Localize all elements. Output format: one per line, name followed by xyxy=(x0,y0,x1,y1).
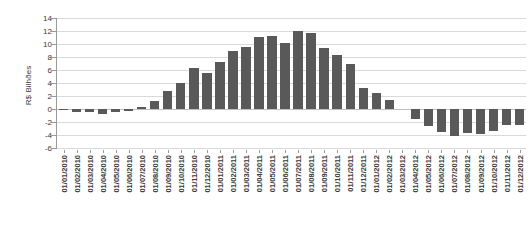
bar[interactable] xyxy=(124,109,133,111)
y-tick-mark xyxy=(51,83,56,84)
x-tick-label: 01/03/2012 xyxy=(398,155,407,193)
x-tick-label: 01/09/2010 xyxy=(163,155,172,193)
bar[interactable] xyxy=(85,109,94,112)
bar[interactable] xyxy=(385,100,394,109)
bar-slot xyxy=(70,18,83,148)
bar-slot xyxy=(435,18,448,148)
y-tick-mark xyxy=(51,31,56,32)
x-tick-mark xyxy=(481,150,482,153)
x-tick-mark xyxy=(337,150,338,153)
bar[interactable] xyxy=(346,64,355,109)
x-label-slot: 01/08/2011 xyxy=(305,150,318,232)
bar-slot xyxy=(422,18,435,148)
bar[interactable] xyxy=(515,109,524,125)
x-label-slot: 01/05/2011 xyxy=(266,150,279,232)
bar[interactable] xyxy=(254,37,263,109)
x-label-slot: 01/12/2012 xyxy=(513,150,526,232)
plot-area xyxy=(57,18,526,148)
bar[interactable] xyxy=(502,109,511,125)
bar[interactable] xyxy=(241,47,250,109)
x-tick-mark xyxy=(64,150,65,153)
x-tick-mark xyxy=(507,150,508,153)
bar-slot xyxy=(213,18,226,148)
x-label-slot: 01/10/2012 xyxy=(487,150,500,232)
bar[interactable] xyxy=(489,109,498,131)
x-tick-mark xyxy=(363,150,364,153)
x-label-slot: 01/11/2012 xyxy=(500,150,513,232)
bar-slot xyxy=(500,18,513,148)
x-label-slot: 01/07/2010 xyxy=(135,150,148,232)
bar-slot xyxy=(187,18,200,148)
x-tick-label: 01/01/2010 xyxy=(59,155,68,193)
x-label-slot: 01/08/2012 xyxy=(461,150,474,232)
x-tick-mark xyxy=(246,150,247,153)
x-tick-mark xyxy=(376,150,377,153)
x-tick-mark xyxy=(467,150,468,153)
bar[interactable] xyxy=(111,109,120,112)
bar[interactable] xyxy=(293,31,302,109)
bar-slot xyxy=(370,18,383,148)
bar[interactable] xyxy=(137,107,146,109)
x-tick-label: 01/06/2012 xyxy=(437,155,446,193)
bar[interactable] xyxy=(215,62,224,109)
x-tick-mark xyxy=(494,150,495,153)
bar[interactable] xyxy=(72,109,81,112)
bar-slot xyxy=(266,18,279,148)
bar[interactable] xyxy=(424,109,433,126)
x-tick-mark xyxy=(520,150,521,153)
bar-slot xyxy=(148,18,161,148)
bar[interactable] xyxy=(163,91,172,109)
bar[interactable] xyxy=(59,109,68,110)
y-tick-mark xyxy=(51,57,56,58)
bar[interactable] xyxy=(463,109,472,133)
bar-slot xyxy=(409,18,422,148)
x-tick-mark xyxy=(298,150,299,153)
bar-slot xyxy=(396,18,409,148)
bar-slot xyxy=(174,18,187,148)
bar-slot xyxy=(344,18,357,148)
x-tick-mark xyxy=(155,150,156,153)
x-tick-label: 01/10/2011 xyxy=(333,155,342,192)
x-tick-label: 01/09/2011 xyxy=(320,155,329,192)
x-tick-mark xyxy=(389,150,390,153)
bar-slot xyxy=(331,18,344,148)
bar[interactable] xyxy=(437,109,446,132)
bar[interactable] xyxy=(202,73,211,109)
bar-slot xyxy=(109,18,122,148)
bar[interactable] xyxy=(267,36,276,109)
x-label-slot: 01/04/2011 xyxy=(252,150,265,232)
bar[interactable] xyxy=(280,43,289,109)
bar[interactable] xyxy=(176,83,185,109)
x-label-slot: 01/10/2010 xyxy=(174,150,187,232)
x-tick-label: 01/03/2010 xyxy=(85,155,94,193)
x-tick-mark xyxy=(350,150,351,153)
x-tick-label: 01/07/2011 xyxy=(294,155,303,192)
x-label-slot: 01/03/2011 xyxy=(239,150,252,232)
bar[interactable] xyxy=(450,109,459,136)
bar-slot xyxy=(357,18,370,148)
gridline xyxy=(57,148,526,149)
bar-slot xyxy=(161,18,174,148)
x-tick-label: 01/12/2010 xyxy=(202,155,211,193)
bar[interactable] xyxy=(306,33,315,109)
bar[interactable] xyxy=(359,88,368,109)
x-tick-label: 01/04/2011 xyxy=(254,155,263,192)
bar[interactable] xyxy=(228,51,237,109)
x-tick-label: 01/07/2010 xyxy=(137,155,146,193)
bar[interactable] xyxy=(372,93,381,109)
y-tick-mark xyxy=(51,109,56,110)
bar[interactable] xyxy=(332,55,341,109)
bar-slot xyxy=(135,18,148,148)
bar[interactable] xyxy=(411,109,420,119)
x-tick-label: 01/09/2012 xyxy=(476,155,485,193)
bar-slot xyxy=(487,18,500,148)
bar[interactable] xyxy=(98,109,107,114)
bar[interactable] xyxy=(319,48,328,109)
bar[interactable] xyxy=(476,109,485,134)
y-tick-mark xyxy=(51,18,56,19)
x-tick-mark xyxy=(142,150,143,153)
bar[interactable] xyxy=(150,101,159,109)
bar[interactable] xyxy=(189,68,198,109)
x-tick-label: 01/02/2011 xyxy=(228,155,237,192)
x-label-slot: 01/01/2011 xyxy=(213,150,226,232)
